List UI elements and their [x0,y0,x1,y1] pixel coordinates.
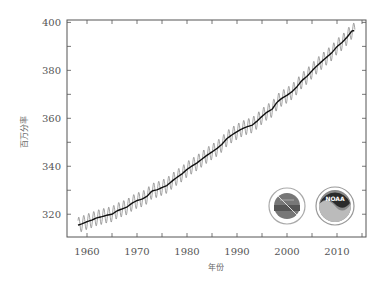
y-tick-label: 340 [42,161,61,172]
x-axis-title: 年份 [208,262,224,272]
x-tick-label: 1960 [74,246,99,257]
noaa-logo-text: NOAA [325,195,345,202]
y-tick-label: 380 [42,65,61,76]
y-tick-label: 400 [42,17,61,28]
y-tick-label: 320 [42,209,61,220]
co2-keeling-curve-chart: 196019701980199020002010320340360380400 … [0,0,387,292]
x-tick-label: 2010 [324,246,349,257]
y-axis-title: 百万分率 [19,116,29,148]
x-tick-label: 1980 [174,246,199,257]
x-tick-label: 2000 [274,246,299,257]
trend-series [78,31,354,225]
x-tick-label: 1970 [124,246,149,257]
y-tick-label: 360 [42,113,61,124]
monthly-series [78,23,355,232]
noaa-logo: NOAA [316,187,354,225]
x-tick-label: 1990 [224,246,249,257]
scripps-seal-logo [269,188,305,224]
